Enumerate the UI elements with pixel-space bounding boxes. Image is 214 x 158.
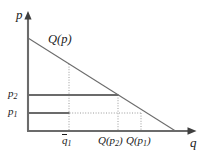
demand-curve-figure: p q Q(p) p2 p1 q1 Q(p2) Q(p1): [0, 0, 214, 158]
qp2-main: Q(p: [98, 134, 115, 146]
qbar1-axis-tick-label: q1: [62, 135, 71, 146]
qbar1-subscript: 1: [68, 139, 72, 148]
q-axis-label: q: [190, 136, 197, 149]
p-axis-label: p: [16, 8, 23, 21]
qbar1-overbar-group: q: [62, 135, 68, 146]
qp1-axis-tick-label: Q(p1): [126, 135, 151, 146]
p1-axis-tick-label: p1: [8, 106, 17, 117]
qp2-subscript: 2: [115, 139, 119, 148]
qp1-tail: ): [147, 134, 151, 146]
q-axis-arrowhead: [188, 127, 197, 135]
qp1-main: Q(p: [126, 134, 143, 146]
p2-subscript: 2: [14, 92, 18, 101]
overbar-mark: [62, 134, 67, 135]
qp2-tail: ): [119, 134, 123, 146]
p-axis-arrowhead: [24, 11, 31, 20]
demand-curve-label: Q(p): [48, 33, 72, 46]
qp1-subscript: 1: [143, 139, 147, 148]
qp2-axis-tick-label: Q(p2): [98, 135, 123, 146]
p2-axis-tick-label: p2: [8, 88, 17, 99]
demand-curve-line: [28, 38, 176, 131]
p1-main: p: [8, 105, 14, 117]
qbar1-main: q: [62, 134, 68, 146]
p2-main: p: [8, 87, 14, 99]
p1-subscript: 1: [14, 110, 18, 119]
